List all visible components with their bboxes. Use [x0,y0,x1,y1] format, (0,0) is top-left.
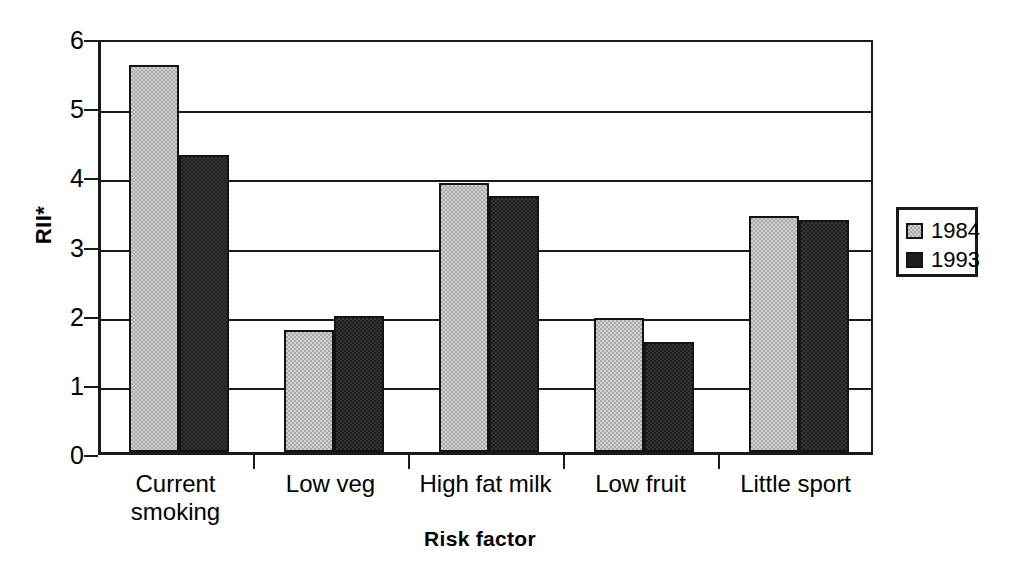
bar [749,216,799,452]
x-axis-category-label: Low fruit [563,470,718,498]
bar-group [411,42,566,452]
legend-item[interactable]: 1993 [906,245,975,274]
x-axis-category-label-line: High fat milk [408,470,563,498]
x-axis-tick-mark [408,455,410,469]
x-axis-title: Risk factor [0,527,960,551]
x-axis-tick-mark [718,455,720,469]
legend-swatch-icon [906,252,923,268]
x-axis-tick-mark [253,455,255,469]
bar [644,342,694,452]
legend-item[interactable]: 1984 [906,216,975,245]
y-axis-tick-mark [84,248,98,250]
x-axis-category-label: Little sport [718,470,873,498]
y-axis-tick-mark [84,317,98,319]
x-axis-category-label-line: smoking [98,498,253,526]
y-axis-tick-label: 4 [70,166,84,191]
bar [179,155,229,452]
bar [439,183,489,452]
bar [489,196,539,452]
x-axis-category-label: Currentsmoking [98,470,253,527]
legend: 19841993 [896,207,978,277]
bar-group [566,42,721,452]
bar [799,220,849,452]
y-axis-tick-mark [84,386,98,388]
y-axis-tick-label: 5 [70,97,84,122]
legend-item-label: 1993 [931,249,980,271]
y-axis-tick-mark [84,109,98,111]
y-axis-tick-label: 3 [70,235,84,260]
x-axis-tick-mark [563,455,565,469]
y-axis-tick-labels: 0123456 [48,40,84,455]
bar-group [721,42,876,452]
plot-area [98,40,873,455]
bar [594,318,644,452]
y-axis-tick-mark [84,455,98,457]
x-axis-category-label: High fat milk [408,470,563,498]
bar [129,65,179,452]
legend-item-label: 1984 [931,220,980,242]
y-axis-tick-label: 0 [70,443,84,468]
legend-swatch-icon [906,223,923,239]
x-axis-category-label-line: Low veg [253,470,408,498]
x-axis-category-label-line: Current [98,470,253,498]
x-axis-category-label: Low veg [253,470,408,498]
x-axis-category-label-line: Little sport [718,470,873,498]
bar-chart: RII* 0123456 CurrentsmokingLow vegHigh f… [0,0,1010,569]
bar [284,330,334,452]
y-axis-tick-mark [84,178,98,180]
bar-group [256,42,411,452]
bar [334,316,384,452]
bar-group [101,42,256,452]
y-axis-tick-label: 1 [70,373,84,398]
y-axis-tick-label: 2 [70,304,84,329]
y-axis-tick-label: 6 [70,28,84,53]
y-axis-tick-mark [84,40,98,42]
x-axis-category-label-line: Low fruit [563,470,718,498]
